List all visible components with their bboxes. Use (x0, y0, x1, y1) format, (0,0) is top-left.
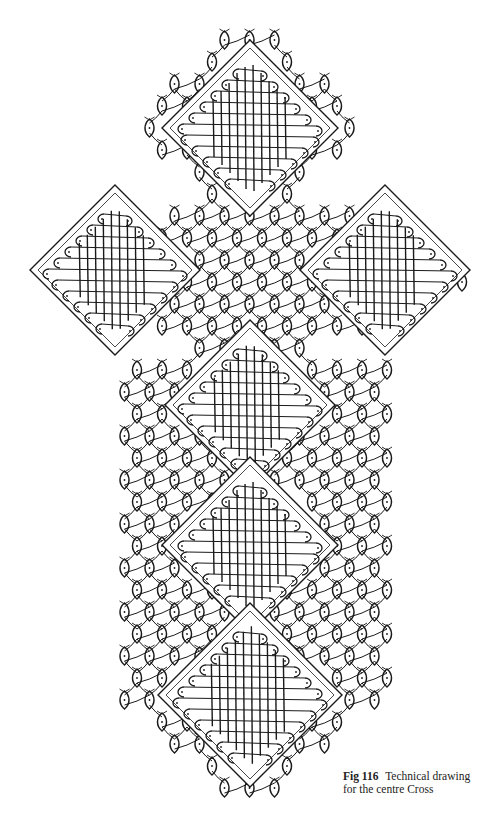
figure-title-line2: for the centre Cross (343, 783, 433, 795)
lower-block-2 (158, 603, 342, 787)
right-block (300, 185, 470, 355)
figure-caption: Fig 116 Technical drawing for the centre… (343, 770, 493, 796)
figure-number: Fig 116 (343, 770, 378, 782)
figure-title: Technical drawing (385, 770, 470, 782)
left-block (30, 185, 200, 355)
top-block (162, 40, 338, 216)
cloth-stitch-blocks (30, 40, 470, 787)
lace-cross-diagram (0, 0, 500, 835)
